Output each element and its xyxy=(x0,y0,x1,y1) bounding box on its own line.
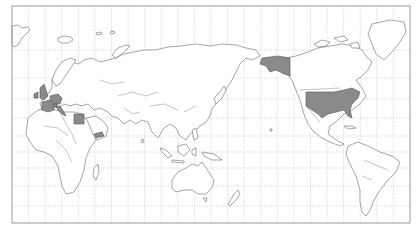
australia xyxy=(172,162,214,194)
africa xyxy=(26,108,96,194)
sri-lanka xyxy=(141,139,144,143)
country-egypt[interactable] xyxy=(74,114,84,124)
new-zealand xyxy=(228,190,240,206)
iceland xyxy=(58,36,73,43)
java xyxy=(172,160,184,163)
tasmania xyxy=(203,198,207,202)
world-map xyxy=(0,0,420,234)
sulawesi xyxy=(192,148,196,156)
greenland-west xyxy=(12,25,30,47)
country-uk[interactable] xyxy=(40,84,48,100)
philippines xyxy=(192,128,198,140)
borneo xyxy=(178,144,190,156)
cuba xyxy=(344,126,356,129)
country-ireland[interactable] xyxy=(34,92,38,98)
country-alaska[interactable] xyxy=(260,56,290,76)
hawaii xyxy=(270,129,272,131)
sumatra xyxy=(160,148,172,158)
madagascar xyxy=(93,164,99,180)
new-guinea xyxy=(202,152,222,160)
landmasses xyxy=(12,20,406,216)
south-america xyxy=(346,142,400,216)
svalbard xyxy=(96,31,115,35)
greenland-east xyxy=(368,20,406,60)
